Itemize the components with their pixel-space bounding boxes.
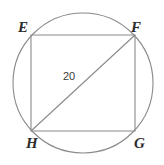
vertex-label-f: F (131, 20, 141, 35)
vertex-label-e: E (18, 20, 28, 35)
geometry-figure: E F H G 20 (0, 0, 164, 165)
vertex-label-g: G (134, 136, 145, 151)
vertex-label-h: H (26, 136, 38, 151)
diagonal-measure-label: 20 (63, 71, 75, 82)
diagonal-hf-shape (31, 35, 135, 131)
